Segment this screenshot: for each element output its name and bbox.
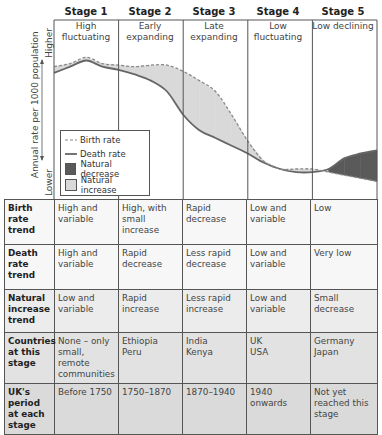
natural-increase-area xyxy=(183,71,199,130)
table-cell: Rapid decrease xyxy=(183,200,247,245)
table-cell: High, with small increase xyxy=(119,200,183,245)
natural-increase-area xyxy=(135,65,151,81)
table-cell: UK USA xyxy=(247,333,311,384)
table-cell: 1940 onwards xyxy=(247,384,311,435)
natural-increase-area xyxy=(248,141,264,163)
table-cell: Low and variable xyxy=(247,245,311,290)
table-row-birth-rate: Birth rate trend High and variable High,… xyxy=(5,200,378,245)
solid-line-icon xyxy=(65,152,77,156)
stage-desc-1: High fluctuating xyxy=(54,21,118,43)
row-header: Birth rate trend xyxy=(5,200,55,245)
table-cell: Germany Japan xyxy=(311,333,378,384)
dashed-line-icon xyxy=(65,138,77,142)
legend-item-birth-rate: Birth rate xyxy=(65,133,120,147)
table-cell: Less rapid increase xyxy=(183,290,247,333)
table-cell: High and variable xyxy=(55,200,119,245)
legend-label: Death rate xyxy=(80,149,126,159)
row-header: UK's period at each stage xyxy=(5,384,55,435)
chart-legend: Birth rate Death rate Natural decrease N… xyxy=(60,130,150,196)
row-header: Natural increase trend xyxy=(5,290,55,333)
stage-desc-5: Low declining xyxy=(311,21,375,32)
table-cell: None – only small, remote communities xyxy=(55,333,119,384)
dtm-table: Birth rate trend High and variable High,… xyxy=(4,199,378,435)
light-swatch-icon xyxy=(65,179,77,191)
legend-item-natural-increase: Natural increase xyxy=(65,178,149,192)
y-axis-higher-label: Higher xyxy=(44,28,54,58)
table-cell: 1750–1870 xyxy=(119,384,183,435)
table-cell: High and variable xyxy=(55,245,119,290)
natural-increase-area xyxy=(167,65,183,115)
table-cell: Low and variable xyxy=(55,290,119,333)
table-cell: Rapid increase xyxy=(119,290,183,333)
table-cell: Ethiopia Peru xyxy=(119,333,183,384)
row-header: Death rate trend xyxy=(5,245,55,290)
natural-increase-area xyxy=(216,92,232,146)
table-cell: India Kenya xyxy=(183,333,247,384)
table-row-uk-period: UK's period at each stage Before 1750 17… xyxy=(5,384,378,435)
table-row-countries: Countries at this stage None – only smal… xyxy=(5,333,378,384)
row-header: Countries at this stage xyxy=(5,333,55,384)
table-cell: Not yet reached this stage xyxy=(311,384,378,435)
table-cell: 1870–1940 xyxy=(183,384,247,435)
table-cell: Rapid decrease xyxy=(119,245,183,290)
natural-decrease-area xyxy=(361,150,377,181)
dark-swatch-icon xyxy=(65,163,76,175)
natural-increase-area xyxy=(199,81,215,138)
arrow-up-icon xyxy=(40,59,44,64)
table-cell: Low and variable xyxy=(247,290,311,333)
table-cell: Low and variable xyxy=(247,200,311,245)
natural-increase-area xyxy=(151,65,167,91)
legend-label: Natural increase xyxy=(81,175,149,195)
table-row-natural-increase: Natural increase trend Low and variable … xyxy=(5,290,378,333)
table-cell: Before 1750 xyxy=(55,384,119,435)
y-axis-lower-label: Lower xyxy=(44,169,54,196)
y-axis-title: Annual rate per 1000 population xyxy=(30,31,40,178)
arrow-down-icon xyxy=(40,156,44,161)
legend-label: Birth rate xyxy=(80,135,120,145)
table-cell: Low xyxy=(311,200,378,245)
table-cell: Less rapid decrease xyxy=(183,245,247,290)
stage-desc-3: Late expanding xyxy=(182,21,246,43)
table-row-death-rate: Death rate trend High and variable Rapid… xyxy=(5,245,378,290)
stage-desc-4: Low fluctuating xyxy=(246,21,310,43)
table-cell: Very low xyxy=(311,245,378,290)
table-cell: Small decrease xyxy=(311,290,378,333)
legend-item-natural-decrease: Natural decrease xyxy=(65,162,149,176)
stage-desc-2: Early expanding xyxy=(118,21,182,43)
